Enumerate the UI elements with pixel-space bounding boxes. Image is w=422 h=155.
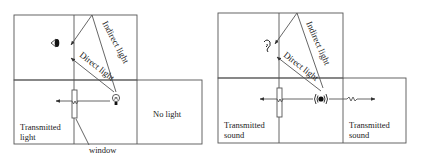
no-light-label: No light (153, 109, 182, 119)
transmitted-sound-left-label-2: sound (224, 130, 245, 140)
transmitted-sound-right-label: Transmitted (349, 120, 391, 130)
transmitted-ray-right (329, 97, 375, 101)
ear-icon (264, 40, 270, 52)
transmitted-light-label-2: light (20, 132, 36, 142)
transmitted-sound-right-label-2: sound (349, 130, 370, 140)
indirect-light-label: Indirect light (100, 19, 131, 65)
transmitted-sound-left-label: Transmitted (224, 120, 266, 130)
light-bulb-icon (112, 94, 119, 105)
window-leader (76, 119, 89, 145)
diagram-canvas: Indirect light Direct light Transmitted … (0, 0, 422, 155)
transmitted-light-label: Transmitted (20, 122, 62, 132)
lower-rooms (218, 78, 406, 143)
eye-icon (51, 39, 59, 47)
indirect-ray-down (275, 13, 297, 44)
indirect-light-label: Indirect light (304, 20, 332, 67)
speaker-icon (315, 94, 328, 104)
window-label: window (89, 145, 117, 155)
